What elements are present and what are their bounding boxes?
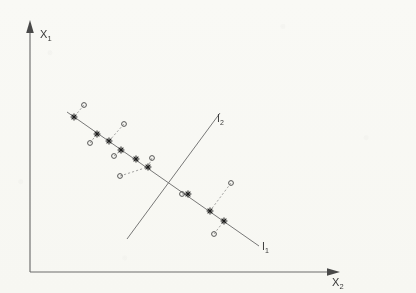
- projected-point-star: [207, 208, 214, 215]
- connector-line: [210, 183, 231, 211]
- figure-canvas: X1 X2 I1 I2: [0, 0, 416, 293]
- x1-axis-label: X1: [40, 28, 52, 43]
- line-l1-label-subscript: 1: [265, 247, 269, 254]
- projected-point-star: [221, 218, 228, 225]
- line-l2: [127, 113, 220, 239]
- projected-point-star: [118, 147, 125, 154]
- data-points-group: [82, 103, 234, 237]
- line-l1-label: I1: [262, 240, 269, 254]
- connector-line: [120, 167, 148, 176]
- projected-point-star: [94, 131, 101, 138]
- projected-point-star: [106, 138, 113, 145]
- line-l2-label-subscript: 2: [220, 119, 224, 126]
- projected-point-star: [145, 164, 152, 171]
- x2-axis-label: X2: [332, 276, 344, 291]
- projection-diagram: X1 X2 I1 I2: [0, 0, 416, 293]
- x1-axis-label-subscript: 1: [48, 34, 52, 43]
- connectors-group: [74, 105, 231, 234]
- x1-axis-arrowhead: [26, 20, 34, 33]
- x2-axis-arrowhead: [327, 268, 340, 276]
- line-l2-label: I2: [217, 112, 224, 126]
- projected-point-star: [185, 191, 192, 198]
- projected-point-star: [133, 156, 140, 163]
- axes-group: [26, 20, 340, 276]
- projected-point-star: [71, 114, 78, 121]
- x2-axis-label-subscript: 2: [340, 282, 344, 291]
- connector-line: [109, 124, 124, 141]
